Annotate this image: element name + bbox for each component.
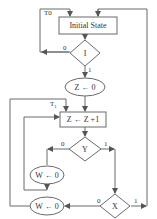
i-zero-label: 0 [63,44,67,52]
edge-y-zero [47,149,69,165]
i-one-label: 1 [88,66,92,74]
edge-y-one [101,149,115,193]
w-reset-upper-label: W ← 0 [35,171,58,180]
t1-label: T1 [50,100,57,109]
w-reset-lower-label: W ← 0 [35,202,58,211]
x-one-label: 1 [134,197,138,205]
decision-i-label: I [84,49,87,58]
t0-label: T0 [44,9,52,17]
decision-x-label: X [112,202,118,211]
loop-x-one-edge [98,9,147,206]
decision-y-label: Y [82,145,88,154]
initial-state-label: Initial State [69,21,107,30]
z-reset-label: Z ← 0 [75,83,96,92]
y-zero-label: 0 [61,140,65,148]
x-zero-label: 0 [97,197,101,205]
flowchart: T0 Initial State I 0 1 Z ← 0 T1 Z ← Z +1… [0,0,157,219]
z-increment-label: Z ← Z +1 [67,115,99,124]
y-one-label: 1 [104,140,108,148]
